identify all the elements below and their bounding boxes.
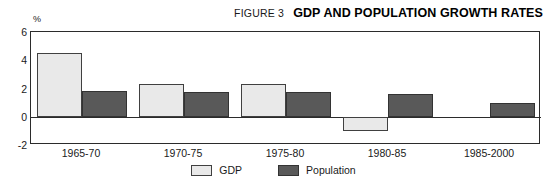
y-axis-unit-label: % xyxy=(33,14,41,24)
y-axis-tick-label: 2 xyxy=(21,83,27,95)
x-axis-tick-label: 1970-75 xyxy=(164,147,203,159)
y-axis-tick-label: 6 xyxy=(21,26,27,38)
x-axis-tick-label: 1980-85 xyxy=(368,147,407,159)
figure-number-label: FIGURE 3 xyxy=(234,7,284,19)
legend-item-population[interactable]: Population xyxy=(278,164,356,176)
bar-population-1965-70 xyxy=(82,91,127,116)
x-axis-labels: 1965-701970-751975-801980-851985-2000 xyxy=(30,147,540,163)
bar-population-1980-85 xyxy=(388,94,433,117)
legend-label: Population xyxy=(306,164,356,176)
bar-gdp-1975-80 xyxy=(241,84,286,116)
bar-gdp-1970-75 xyxy=(139,84,184,116)
figure-title: GDP AND POPULATION GROWTH RATES xyxy=(293,6,543,20)
figure-container: FIGURE 3 GDP AND POPULATION GROWTH RATES… xyxy=(0,0,547,184)
y-axis-tick-label: 4 xyxy=(21,54,27,66)
bar-population-1975-80 xyxy=(286,92,331,117)
bar-population-1970-75 xyxy=(184,92,229,117)
legend-item-gdp[interactable]: GDP xyxy=(191,164,242,176)
bars-layer xyxy=(31,32,541,145)
x-axis-tick-label: 1975-80 xyxy=(266,147,305,159)
bar-population-1985-2000 xyxy=(490,103,535,117)
x-axis-tick-label: 1985-2000 xyxy=(464,147,514,159)
figure-header: FIGURE 3 GDP AND POPULATION GROWTH RATES xyxy=(234,6,543,20)
plot-area: 6420-2 xyxy=(30,31,540,144)
bar-gdp-1980-85 xyxy=(343,117,388,131)
legend-label: GDP xyxy=(219,164,242,176)
legend-swatch-icon xyxy=(278,165,299,176)
chart-legend: GDPPopulation xyxy=(0,164,547,176)
y-axis-tick-label: -2 xyxy=(18,139,27,151)
y-axis-tick-label: 0 xyxy=(21,111,27,123)
legend-swatch-icon xyxy=(191,165,212,176)
x-axis-tick-label: 1965-70 xyxy=(62,147,101,159)
bar-gdp-1965-70 xyxy=(37,53,82,117)
